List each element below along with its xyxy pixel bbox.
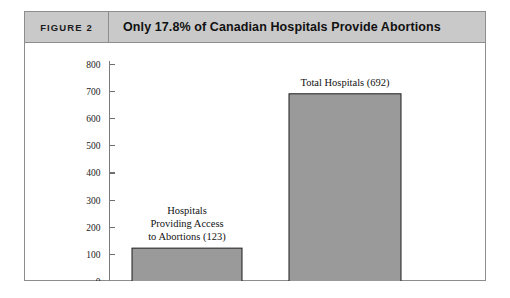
y-tick-label: 500 [86, 141, 101, 151]
figure-header: FIGURE 2 Only 17.8% of Canadian Hospital… [25, 12, 485, 43]
y-tick-label: 600 [86, 114, 101, 124]
bars-group [132, 94, 401, 281]
bar-chart: 0100200300400500600700800 HospitalsProvi… [25, 43, 485, 281]
bar-label: Providing Access [150, 218, 223, 229]
y-tick-label: 400 [86, 168, 101, 178]
bar [132, 248, 242, 281]
bar-label: to Abortions (123) [148, 231, 226, 243]
bar-label: Total Hospitals (692) [300, 77, 390, 89]
figure-number-cell: FIGURE 2 [25, 12, 109, 42]
figure-number-label: FIGURE 2 [40, 22, 93, 33]
y-tick-label: 800 [86, 60, 101, 70]
y-tick-label: 700 [86, 87, 101, 97]
y-tick-label: 300 [86, 196, 101, 206]
bar-label: Hospitals [167, 205, 207, 216]
chart-plot-area: 0100200300400500600700800 HospitalsProvi… [25, 43, 485, 280]
y-tick-label: 200 [86, 223, 101, 233]
bar [289, 94, 401, 281]
y-axis-tick-labels: 0100200300400500600700800 [86, 60, 101, 281]
y-tick-label: 100 [86, 250, 101, 260]
y-tick-label: 0 [96, 277, 101, 281]
figure-title-cell: Only 17.8% of Canadian Hospitals Provide… [109, 12, 485, 42]
y-axis-tick-marks [110, 65, 115, 282]
figure-title: Only 17.8% of Canadian Hospitals Provide… [123, 20, 441, 34]
figure-frame: FIGURE 2 Only 17.8% of Canadian Hospital… [24, 11, 486, 281]
